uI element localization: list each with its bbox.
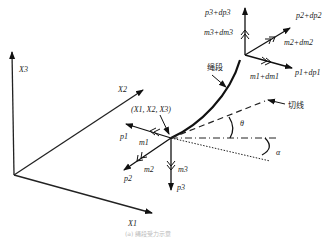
rope-segment	[171, 60, 240, 138]
tangent-label: 切线	[288, 100, 304, 110]
x1-label: X1	[127, 219, 137, 228]
theta-arc	[229, 117, 233, 138]
p1-dp1-arrow	[245, 55, 292, 68]
alpha-arc	[262, 138, 269, 155]
figure-caption: (a) 绳段受力示意	[125, 230, 171, 238]
x3-axis	[12, 52, 14, 175]
p1-arrow	[126, 124, 171, 138]
m1-double-arrow	[150, 128, 160, 136]
p3-dp3-label: p3+dp3	[204, 8, 230, 17]
p2-dp2-label: p2+dp2	[295, 11, 321, 20]
m3-label: m3	[178, 165, 188, 174]
node-point-label: (X1, X2, X3)	[131, 105, 171, 114]
rope-segment-label: 绳段	[207, 62, 223, 72]
p1-label: p1	[119, 132, 128, 141]
projection-line	[171, 138, 270, 161]
m1-label: m1	[139, 138, 149, 147]
m2-dm2-label: m2+dm2	[284, 38, 313, 47]
x3-label: X3	[18, 65, 28, 74]
global-axes: X3 X2 X1	[12, 52, 152, 228]
p3-label: p3	[176, 183, 185, 192]
m1-dm1-double-arrow	[261, 57, 271, 65]
m3-dm3-label: m3+dm3	[204, 28, 233, 37]
rope-segment-force-diagram: X3 X2 X1 绳段 切线 θ α (X1, X2, X3) p1 m1 p2…	[0, 0, 327, 238]
tangent-line	[171, 101, 265, 138]
rope-pointer-arrow	[212, 75, 226, 87]
alpha-label: α	[276, 148, 281, 157]
m1-dm1-label: m1+dm1	[250, 72, 279, 81]
p2-label: p2	[123, 174, 132, 183]
theta-label: θ	[240, 119, 244, 128]
p1-dp1-label: p1+dp1	[294, 68, 320, 77]
x2-label: X2	[117, 85, 127, 94]
node-pointer-arrow	[160, 115, 169, 134]
tangent-pointer-arrow	[268, 100, 285, 104]
m2-label: m2	[144, 165, 154, 174]
